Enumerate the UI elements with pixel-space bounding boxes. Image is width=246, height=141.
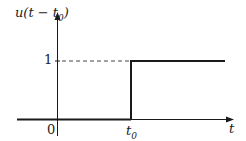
- step-function-diagram: u(t − t0) 1 0 t0 t: [0, 0, 246, 141]
- x-axis-label: t: [229, 121, 234, 136]
- tick-label-one: 1: [44, 52, 52, 67]
- tick-label-zero: 0: [47, 122, 55, 137]
- tick-label-t0: t0: [126, 123, 137, 141]
- y-axis-label: u(t − t0): [15, 5, 69, 23]
